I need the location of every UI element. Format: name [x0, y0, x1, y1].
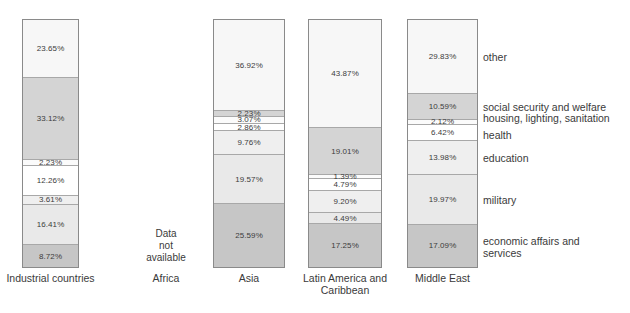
legend-item-2[interactable]: housing, lighting, sanitation	[483, 112, 610, 124]
segment-value-label: 19.57%	[235, 175, 263, 184]
segment-industrial-countries-6[interactable]: 8.72%	[23, 245, 78, 267]
segment-asia-3[interactable]: 2.86%	[214, 124, 284, 131]
legend-item-5[interactable]: military	[483, 194, 516, 206]
segment-value-label: 25.59%	[235, 231, 263, 240]
segment-value-label: 12.26%	[37, 176, 65, 185]
segment-middle-east-6[interactable]: 17.09%	[408, 225, 477, 267]
segment-value-label: 9.76%	[237, 138, 260, 147]
legend-item-4[interactable]: education	[483, 152, 529, 164]
segment-middle-east-5[interactable]: 19.97%	[408, 175, 477, 224]
bar-middle-east[interactable]: 29.83%10.59%2.12%6.42%13.98%19.97%17.09%	[407, 19, 478, 268]
no-data-text-africa: Data not available	[140, 228, 192, 264]
legend-item-3[interactable]: health	[483, 129, 512, 141]
segment-industrial-countries-4[interactable]: 3.61%	[23, 196, 78, 205]
segment-value-label: 17.25%	[331, 241, 359, 250]
segment-value-label: 36.92%	[235, 61, 263, 70]
segment-latin-america-and-caribbean-3[interactable]: 4.79%	[309, 179, 381, 191]
segment-industrial-countries-0[interactable]: 23.65%	[23, 20, 78, 78]
segment-asia-6[interactable]: 25.59%	[214, 204, 284, 267]
segment-value-label: 9.20%	[333, 197, 356, 206]
segment-latin-america-and-caribbean-1[interactable]: 19.01%	[309, 128, 381, 175]
segment-value-label: 16.41%	[37, 220, 65, 229]
category-label-industrial-countries: Industrial countries	[0, 272, 107, 284]
segment-value-label: 4.79%	[333, 180, 356, 189]
segment-middle-east-0[interactable]: 29.83%	[408, 20, 477, 94]
legend-item-6[interactable]: economic affairs and services	[483, 235, 580, 259]
segment-latin-america-and-caribbean-6[interactable]: 17.25%	[309, 224, 381, 267]
segment-value-label: 13.98%	[429, 153, 457, 162]
segment-industrial-countries-5[interactable]: 16.41%	[23, 205, 78, 246]
segment-value-label: 4.49%	[333, 214, 356, 223]
category-label-middle-east: Middle East	[379, 272, 506, 284]
legend-item-0[interactable]: other	[483, 51, 507, 63]
segment-value-label: 43.87%	[331, 69, 359, 78]
segment-asia-5[interactable]: 19.57%	[214, 155, 284, 203]
segment-value-label: 19.01%	[331, 147, 359, 156]
segment-industrial-countries-3[interactable]: 12.26%	[23, 166, 78, 196]
segment-value-label: 17.09%	[429, 241, 457, 250]
stacked-bar-chart: 23.65%33.12%2.23%12.26%3.61%16.41%8.72%I…	[0, 0, 630, 313]
segment-latin-america-and-caribbean-4[interactable]: 9.20%	[309, 191, 381, 214]
segment-value-label: 33.12%	[37, 114, 65, 123]
segment-middle-east-1[interactable]: 10.59%	[408, 94, 477, 120]
segment-latin-america-and-caribbean-0[interactable]: 43.87%	[309, 20, 381, 128]
segment-asia-4[interactable]: 9.76%	[214, 131, 284, 155]
segment-value-label: 10.59%	[429, 102, 457, 111]
segment-asia-0[interactable]: 36.92%	[214, 20, 284, 111]
segment-latin-america-and-caribbean-5[interactable]: 4.49%	[309, 213, 381, 224]
segment-middle-east-4[interactable]: 13.98%	[408, 141, 477, 176]
segment-value-label: 19.97%	[429, 195, 457, 204]
segment-value-label: 23.65%	[37, 44, 65, 53]
bar-latin-america-and-caribbean[interactable]: 43.87%19.01%1.39%4.79%9.20%4.49%17.25%	[308, 19, 382, 268]
bar-industrial-countries[interactable]: 23.65%33.12%2.23%12.26%3.61%16.41%8.72%	[22, 19, 79, 268]
segment-value-label: 8.72%	[39, 252, 62, 261]
segment-middle-east-3[interactable]: 6.42%	[408, 125, 477, 141]
segment-value-label: 29.83%	[429, 52, 457, 61]
bar-asia[interactable]: 36.92%2.23%3.07%2.86%9.76%19.57%25.59%	[213, 19, 285, 268]
segment-value-label: 3.61%	[39, 195, 62, 204]
segment-industrial-countries-1[interactable]: 33.12%	[23, 78, 78, 160]
segment-value-label: 6.42%	[431, 128, 454, 137]
